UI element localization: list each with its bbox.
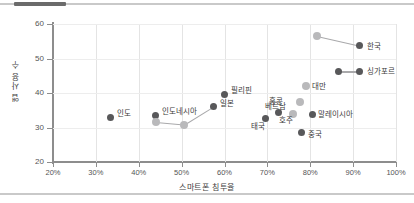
- gridline-horizontal: [53, 59, 396, 60]
- data-point[interactable]: [302, 82, 310, 90]
- y-axis-tick-label: 60: [18, 20, 44, 28]
- data-point[interactable]: [221, 91, 228, 98]
- x-axis-tick-label: 20%: [33, 169, 73, 177]
- data-point[interactable]: [180, 121, 188, 129]
- x-axis-tick-mark: [267, 163, 268, 167]
- data-point[interactable]: [296, 98, 304, 106]
- data-point-label: 홍콩: [269, 97, 283, 106]
- x-axis-tick-label: 40%: [119, 169, 159, 177]
- y-axis-tick-mark: [47, 128, 52, 129]
- data-point-label: 태국: [251, 122, 265, 131]
- data-point-label: 인도네시아: [162, 107, 197, 116]
- x-axis-tick-label: 60%: [205, 169, 245, 177]
- x-axis-tick-mark: [182, 163, 183, 167]
- x-axis-tick-mark: [353, 163, 354, 167]
- data-point[interactable]: [356, 68, 363, 75]
- x-axis-tick-label: 80%: [290, 169, 330, 177]
- y-axis-tick-label: 50: [18, 55, 44, 63]
- chart-screenshot: 앱 사용 수 스마트폰 침투율 인도인도네시아일본필리핀태국베트남호주중국대만말…: [0, 0, 414, 203]
- data-point-label: 싱가포르: [367, 67, 395, 76]
- y-axis-tick-label: 20: [18, 158, 44, 166]
- x-axis-tick-mark: [139, 163, 140, 167]
- y-axis-tick-mark: [47, 93, 52, 94]
- top-accent-bar: [14, 2, 66, 6]
- data-point[interactable]: [298, 129, 305, 136]
- data-point[interactable]: [356, 42, 363, 49]
- gridline-horizontal: [53, 128, 396, 129]
- x-axis-tick-mark: [53, 163, 54, 167]
- data-point[interactable]: [309, 111, 316, 118]
- data-point-label: 일본: [220, 99, 234, 108]
- data-point-label: 중국: [308, 130, 322, 139]
- x-axis-tick-mark: [96, 163, 97, 167]
- plot-area: 인도인도네시아일본필리핀태국베트남호주중국대만말레이시아홍콩한국싱가포르: [53, 24, 396, 162]
- data-point[interactable]: [210, 103, 217, 110]
- gridline-vertical: [396, 24, 397, 162]
- data-point[interactable]: [335, 68, 342, 75]
- x-axis-label: 스마트폰 침투율: [0, 181, 414, 192]
- x-axis-tick-label: 70%: [247, 169, 287, 177]
- data-point-label: 호주: [279, 116, 293, 125]
- y-axis-tick-label: 30: [18, 124, 44, 132]
- y-axis-tick-mark: [47, 24, 52, 25]
- data-point-label: 한국: [367, 42, 381, 51]
- data-point-label: 대만: [312, 82, 326, 91]
- data-point-label: 필리핀: [231, 86, 252, 95]
- data-point[interactable]: [152, 118, 160, 126]
- y-axis-tick-mark: [47, 59, 52, 60]
- x-axis-tick-mark: [225, 163, 226, 167]
- gridline-horizontal: [53, 24, 396, 25]
- x-axis-tick-label: 50%: [162, 169, 202, 177]
- data-point-label: 말레이시아: [318, 110, 353, 119]
- data-point-label: 인도: [117, 109, 131, 118]
- x-axis-tick-mark: [310, 163, 311, 167]
- x-axis-tick-label: 30%: [76, 169, 116, 177]
- x-axis-tick-mark: [396, 163, 397, 167]
- x-axis-tick-label: 90%: [333, 169, 373, 177]
- data-point[interactable]: [313, 32, 321, 40]
- y-axis-tick-mark: [47, 162, 52, 163]
- x-axis-tick-label: 100%: [376, 169, 414, 177]
- bottom-divider: [0, 193, 414, 195]
- y-axis-tick-label: 40: [18, 89, 44, 97]
- data-point[interactable]: [107, 114, 114, 121]
